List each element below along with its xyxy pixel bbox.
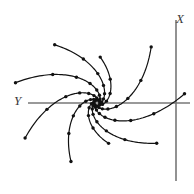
trajectory-point-marker: [91, 126, 94, 129]
trajectory-point-marker: [107, 142, 110, 145]
trajectory-point-marker: [87, 106, 90, 109]
phase-plane-plot: [0, 0, 194, 194]
trajectory-point-marker: [14, 81, 17, 84]
trajectory-point-marker: [102, 97, 105, 100]
trajectory-point-marker: [129, 119, 132, 122]
trajectory-point-marker: [139, 79, 142, 82]
trajectory-point-marker: [69, 160, 72, 163]
trajectory-point-marker: [87, 114, 90, 117]
trajectory-point-marker: [115, 105, 118, 108]
trajectory-point-marker: [90, 102, 93, 105]
trajectory-point-marker: [98, 94, 101, 97]
trajectory-point-marker: [106, 107, 109, 110]
trajectory-point-marker: [126, 97, 129, 100]
trajectory-point-marker: [97, 106, 100, 109]
trajectory-point-marker: [103, 92, 106, 95]
trajectory-point-marker: [78, 104, 81, 107]
trajectory-point-marker: [51, 73, 54, 76]
trajectory-point-marker: [101, 107, 104, 110]
trajectory-point-marker: [45, 108, 48, 111]
trajectory-point-marker: [155, 142, 158, 145]
trajectory-point-marker: [64, 95, 67, 98]
trajectory-point-marker: [53, 43, 56, 46]
trajectory-point-marker: [23, 136, 26, 139]
trajectory-point-marker: [78, 91, 81, 94]
trajectory-point-marker: [105, 129, 108, 132]
phase-portrait-figure: X Y: [0, 0, 194, 194]
trajectory-point-marker: [89, 98, 92, 101]
trajectory-point-marker: [95, 120, 98, 123]
trajectory-point-marker: [103, 116, 106, 119]
trajectory-point-marker: [183, 92, 186, 95]
axis-label-y: Y: [14, 94, 21, 107]
trajectory-point-marker: [98, 97, 101, 100]
trajectory-point-marker: [98, 112, 101, 115]
trajectory-point-marker: [113, 119, 116, 122]
trajectory-point-marker: [84, 100, 87, 103]
trajectory-point-marker: [91, 113, 94, 116]
trajectory-point-marker: [152, 112, 155, 115]
axes-group: [28, 20, 190, 181]
trajectory-point-marker: [102, 84, 105, 87]
trajectory-point-marker: [96, 72, 99, 75]
trajectory-point-marker: [72, 114, 75, 117]
trajectory-point-marker: [149, 45, 152, 48]
trajectory-point-marker: [109, 77, 112, 80]
trajectory-point-marker: [95, 88, 98, 91]
trajectory-point-marker: [99, 55, 102, 58]
trajectory-point-marker: [95, 96, 98, 99]
axis-label-x: X: [176, 12, 184, 25]
trajectory-point-marker: [82, 57, 85, 60]
trajectory-point-marker: [75, 75, 78, 78]
trajectory-point-marker: [88, 82, 91, 85]
trajectory-point-marker: [91, 107, 94, 110]
trajectory-point-marker: [95, 108, 98, 111]
trajectory-point-marker: [101, 103, 104, 106]
trajectory-point-marker: [87, 92, 90, 95]
trajectory-point-marker: [123, 138, 126, 141]
trajectory-point-marker: [67, 132, 70, 135]
trajectory-curve: [16, 74, 101, 102]
trajectory-point-marker: [105, 99, 108, 102]
trajectory-point-marker: [108, 92, 111, 95]
trajectory-point-marker: [92, 94, 95, 97]
